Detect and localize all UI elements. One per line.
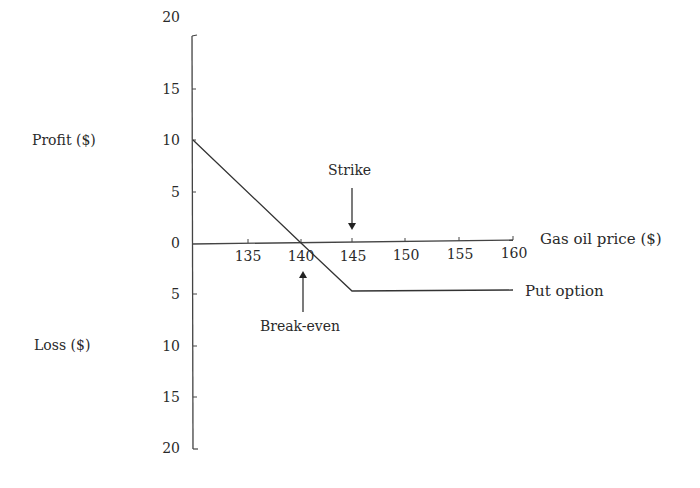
strike-arrow-icon	[348, 188, 356, 230]
y-tick-15-loss: 15	[150, 390, 180, 404]
y-tick-5-loss: 5	[150, 287, 180, 301]
x-tick-135: 135	[228, 249, 268, 263]
x-tick-140: 140	[281, 249, 321, 263]
y-tick-0: 0	[150, 236, 180, 250]
break-even-annotation: Break-even	[260, 319, 340, 333]
loss-label: Loss ($)	[34, 338, 90, 352]
profit-label: Profit ($)	[32, 133, 96, 147]
y-tick-10-loss: 10	[150, 339, 180, 353]
x-tick-150: 150	[386, 248, 426, 262]
x-tick-155: 155	[440, 247, 480, 261]
x-tick-145: 145	[333, 249, 373, 263]
strike-annotation: Strike	[328, 163, 371, 177]
y-axis-line	[192, 36, 193, 449]
series-label-put-option: Put option	[525, 284, 604, 299]
y-tick-10-profit: 10	[150, 133, 180, 147]
x-axis-title: Gas oil price ($)	[540, 232, 662, 247]
break-even-arrow-icon	[299, 271, 307, 312]
y-tick-15-profit: 15	[150, 82, 180, 96]
y-tick-20-loss: 20	[150, 441, 180, 455]
x-tick-160: 160	[494, 246, 534, 260]
y-tick-5-profit: 5	[150, 185, 180, 199]
y-tick-20-profit: 20	[150, 10, 180, 24]
